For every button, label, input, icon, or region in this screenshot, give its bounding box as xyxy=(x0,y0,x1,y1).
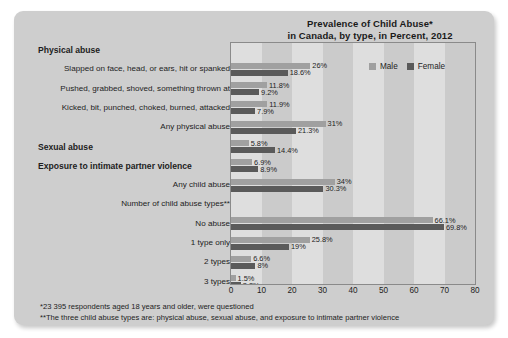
category-label: 1 type only xyxy=(18,238,230,248)
bar-value-label: 3.2% xyxy=(243,282,260,285)
legend-swatch-female-icon xyxy=(407,63,414,70)
footnote-2: **The three child abuse types are: physi… xyxy=(40,312,488,323)
bar-male xyxy=(231,217,433,223)
chart-card: Prevalence of Child Abuse* in Canada, by… xyxy=(14,11,494,325)
chart-legend: Male Female xyxy=(369,62,445,71)
legend-label-male: Male xyxy=(380,62,398,71)
bar-value-label: 8% xyxy=(257,262,268,269)
x-axis-tick-label: 10 xyxy=(257,286,266,295)
category-label-column: Physical abuseSlapped on face, head, or … xyxy=(14,11,230,325)
bar-value-label: 25.8% xyxy=(312,236,333,243)
category-label: Sexual abuse xyxy=(38,142,228,152)
legend-label-female: Female xyxy=(418,62,445,71)
bar-value-label: 19% xyxy=(291,243,306,250)
bar-value-label: 69.8% xyxy=(446,224,467,231)
legend-item-female: Female xyxy=(407,62,445,71)
category-label: Physical abuse xyxy=(38,45,228,55)
bar-female xyxy=(231,108,255,114)
bar-male xyxy=(231,256,251,262)
bar-value-label: 26% xyxy=(312,62,327,69)
category-label: Number of child abuse types** xyxy=(18,199,230,209)
bar-male xyxy=(231,179,335,185)
bar-value-label: 31% xyxy=(328,120,343,127)
category-label: 2 types xyxy=(18,257,230,267)
bar-female xyxy=(231,224,444,230)
plot-area: 26%18.6%11.8%9.2%11.9%7.9%31%21.3%5.8%14… xyxy=(230,42,476,285)
x-axis-tick-label: 80 xyxy=(470,286,479,295)
bar-female xyxy=(231,166,258,172)
x-axis-tick-label: 70 xyxy=(440,286,449,295)
bar-value-label: 21.3% xyxy=(298,127,319,134)
bar-male xyxy=(231,159,252,165)
bar-female xyxy=(231,70,288,76)
category-label: Any child abuse xyxy=(18,180,230,190)
x-axis-tick-label: 30 xyxy=(318,286,327,295)
category-label: Pushed, grabbed, shoved, something throw… xyxy=(18,84,230,94)
bar-value-label: 7.9% xyxy=(257,108,274,115)
bar-value-label: 30.3% xyxy=(325,185,346,192)
category-label: 3 types xyxy=(18,277,230,287)
bar-female xyxy=(231,89,259,95)
x-axis-tick-label: 40 xyxy=(348,286,357,295)
legend-item-male: Male xyxy=(369,62,398,71)
bar-male xyxy=(231,275,236,281)
bar-value-label: 8.9% xyxy=(260,166,277,173)
footnotes: *23 395 respondents aged 18 years and ol… xyxy=(40,301,488,323)
bar-value-label: 9.2% xyxy=(261,89,278,96)
bar-female xyxy=(231,282,241,285)
bar-female xyxy=(231,147,275,153)
category-label: Kicked, bit, punched, choked, burned, at… xyxy=(18,103,230,113)
chart-title-line-2: in Canada, by type, in Percent, 2012 xyxy=(246,30,494,42)
bar-value-label: 5.8% xyxy=(251,140,268,147)
category-label: No abuse xyxy=(18,219,230,229)
bars-layer: 26%18.6%11.8%9.2%11.9%7.9%31%21.3%5.8%14… xyxy=(231,43,475,284)
chart-title-line-1: Prevalence of Child Abuse* xyxy=(246,18,494,30)
category-label: Exposure to intimate partner violence xyxy=(38,161,228,171)
bar-female xyxy=(231,244,289,250)
chart-title: Prevalence of Child Abuse* in Canada, by… xyxy=(246,18,494,42)
category-label: Any physical abuse xyxy=(18,122,230,132)
bar-male xyxy=(231,140,249,146)
x-axis-tick-label: 0 xyxy=(229,286,234,295)
bar-value-label: 18.6% xyxy=(290,69,311,76)
legend-swatch-male-icon xyxy=(369,63,376,70)
x-axis-tick-label: 20 xyxy=(287,286,296,295)
x-axis-tick-label: 60 xyxy=(409,286,418,295)
x-axis: 01020304050607080 xyxy=(230,286,476,300)
footnote-1: *23 395 respondents aged 18 years and ol… xyxy=(40,301,488,312)
x-axis-tick-label: 50 xyxy=(379,286,388,295)
bar-female xyxy=(231,263,255,269)
bar-female xyxy=(231,186,323,192)
bar-female xyxy=(231,128,296,134)
category-label: Slapped on face, head, or ears, hit or s… xyxy=(18,64,230,74)
bar-value-label: 14.4% xyxy=(277,147,298,154)
